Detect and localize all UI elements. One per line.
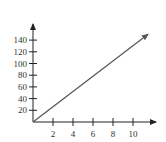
y-tick-label: 80 [18,70,28,80]
y-tick-label: 100 [14,59,28,69]
x-tick-label: 6 [91,129,96,139]
y-tick-label: 120 [14,47,28,57]
x-tick-label: 10 [129,129,139,139]
x-ticks: 246810 [51,118,138,139]
y-tick-label: 60 [18,82,28,92]
y-tick-label: 140 [14,35,28,45]
line-chart: 20406080100120140 246810 [0,0,166,142]
y-tick-label: 20 [18,105,28,115]
data-series [33,34,148,122]
series-line [33,34,148,122]
x-tick-label: 2 [51,129,56,139]
y-tick-label: 40 [18,94,28,104]
x-tick-label: 4 [71,129,76,139]
x-tick-label: 8 [111,129,116,139]
